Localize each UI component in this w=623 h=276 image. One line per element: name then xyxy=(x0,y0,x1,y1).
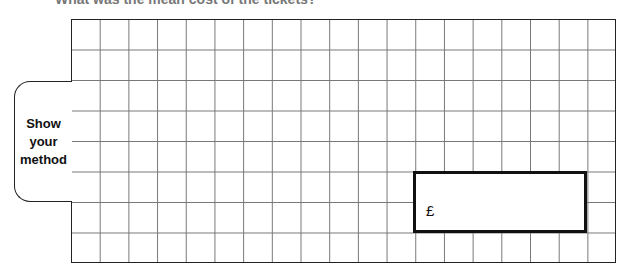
question-text-cropped: What was the mean cost of the tickets? xyxy=(55,0,316,7)
pound-sign: £ xyxy=(426,202,434,219)
method-tab-line-3: method xyxy=(20,151,67,169)
answer-box[interactable]: £ xyxy=(413,171,587,233)
method-tab-line-2: your xyxy=(29,133,57,151)
method-tab-line-1: Show xyxy=(26,115,61,133)
show-your-method-tab: Show your method xyxy=(14,81,72,202)
